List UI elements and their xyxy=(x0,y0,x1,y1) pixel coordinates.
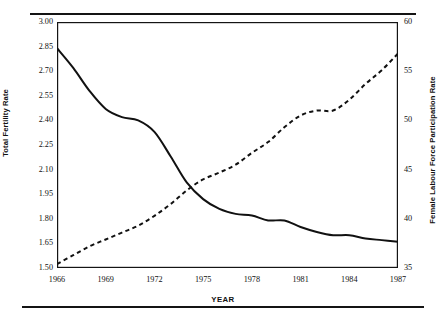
x-axis-tick-label: 1978 xyxy=(232,276,272,284)
series-female-labour-force-participation-line xyxy=(57,53,398,264)
y-axis-left-title-text: Total Fertility Rate xyxy=(1,89,10,157)
y-axis-left-title: Total Fertility Rate xyxy=(0,0,12,246)
y-axis-right-tick-label: 60 xyxy=(404,18,430,26)
x-axis-title: YEAR xyxy=(0,295,446,304)
x-axis-tick-label: 1987 xyxy=(378,276,418,284)
y-axis-right-tick-label: 50 xyxy=(404,116,430,124)
figure: Total Fertility Rate Female Labour Force… xyxy=(0,0,446,320)
y-axis-right-tick-label: 35 xyxy=(404,264,430,272)
y-axis-left-tick-label: 3.00 xyxy=(19,18,53,26)
y-axis-left-tick-label: 2.25 xyxy=(19,141,53,149)
x-axis-ticks: 19661969197219751978198119841987 xyxy=(57,276,398,290)
y-axis-left-tick-label: 2.70 xyxy=(19,67,53,75)
x-axis-tick-label: 1981 xyxy=(281,276,321,284)
chart-canvas xyxy=(57,22,398,268)
y-axis-right-ticks: 354045505560 xyxy=(404,22,432,268)
y-axis-left-tick-label: 1.95 xyxy=(19,190,53,198)
y-axis-left-tick-label: 2.85 xyxy=(19,43,53,51)
y-axis-right-tick-label: 45 xyxy=(404,166,430,174)
y-axis-left-ticks: 1.501.651.801.952.102.252.402.552.702.85… xyxy=(17,22,53,268)
y-axis-right-tick-label: 55 xyxy=(404,67,430,75)
y-axis-left-tick-label: 2.10 xyxy=(19,166,53,174)
y-axis-right-tick-label: 40 xyxy=(404,215,430,223)
y-axis-left-tick-label: 2.40 xyxy=(19,116,53,124)
plot-frame xyxy=(58,23,398,268)
bottom-horizontal-rule xyxy=(22,306,424,308)
y-axis-left-tick-label: 2.55 xyxy=(19,92,53,100)
y-axis-left-tick-label: 1.65 xyxy=(19,239,53,247)
x-axis-tick-label: 1975 xyxy=(183,276,223,284)
series-total-fertility-rate-line xyxy=(57,48,398,242)
plot-area xyxy=(57,22,398,268)
y-axis-left-tick-label: 1.80 xyxy=(19,215,53,223)
top-horizontal-rule xyxy=(30,13,416,15)
x-axis-tick-label: 1972 xyxy=(134,276,174,284)
x-axis-tick-label: 1969 xyxy=(86,276,126,284)
x-axis-tick-label: 1966 xyxy=(37,276,77,284)
y-axis-left-tick-label: 1.50 xyxy=(19,264,53,272)
x-axis-tick-label: 1984 xyxy=(329,276,369,284)
